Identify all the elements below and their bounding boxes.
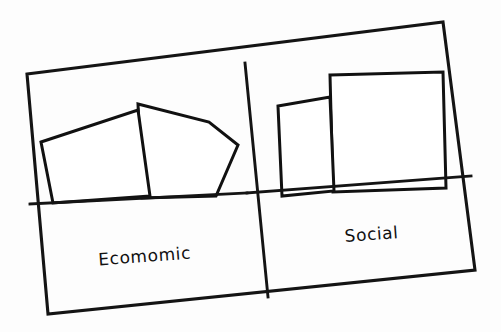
hand-drawn-bar-chart-figure: Ecomomic Social (0, 0, 501, 332)
right-panel-bar-2 (330, 68, 446, 196)
category-label-social: Social (344, 222, 399, 246)
right-panel-bar-1 (278, 93, 334, 200)
right-panel-bar-2-outline (330, 72, 446, 192)
right-panel-bar-1-outline (278, 97, 334, 196)
sketch-canvas: Ecomomic Social (0, 0, 501, 332)
